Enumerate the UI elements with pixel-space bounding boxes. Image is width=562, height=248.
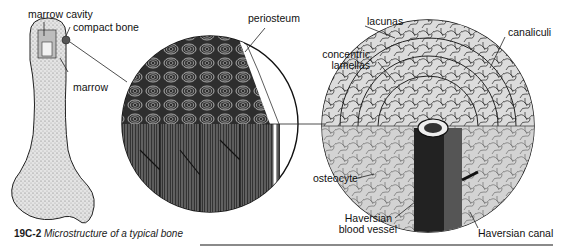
figure-title: Microstructure of a typical bone (44, 228, 183, 239)
figure-number: 19C-2 (14, 228, 41, 239)
bone-drawing (12, 18, 95, 223)
bone-microstructure-figure: marrow cavity compact bone marrow perios… (0, 0, 562, 248)
label-marrow-cavity: marrow cavity (28, 9, 93, 20)
label-osteocyte: osteocyte (313, 173, 358, 184)
label-blood-vessel: blood vessel (330, 224, 397, 235)
label-lamellas: lamellas (320, 60, 370, 71)
caption-rule (200, 244, 553, 246)
label-periosteum: periosteum (248, 13, 300, 24)
label-haversian-canal: Haversian canal (478, 228, 553, 239)
figure-illustration (0, 0, 562, 248)
label-compact-bone: compact bone (73, 22, 139, 33)
label-canaliculi: canaliculi (508, 27, 551, 38)
label-marrow: marrow (73, 82, 108, 93)
figure-caption: 19C-2 Microstructure of a typical bone (14, 228, 183, 239)
compact-bone-section-drawing (120, 20, 298, 234)
label-lacunas: lacunas (367, 16, 403, 27)
